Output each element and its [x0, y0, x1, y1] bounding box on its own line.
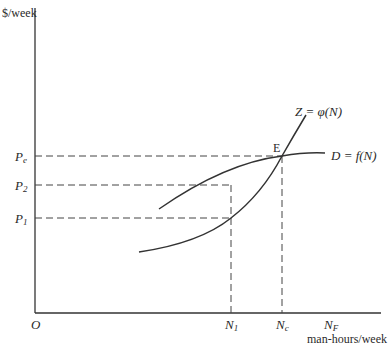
tick-p2: P2 [15, 179, 27, 194]
origin-label: O [31, 318, 40, 331]
x-axis-label: man-hours/week [307, 333, 387, 345]
tick-pe: Pe [15, 150, 27, 165]
tick-nc: Nc [276, 318, 289, 333]
y-axis-label: $/week [2, 7, 37, 19]
tick-p1: P1 [15, 212, 27, 227]
curve-d [159, 153, 325, 209]
curve-d-label: D = f(N) [331, 149, 377, 162]
curve-z [139, 115, 306, 252]
tick-n1: N1 [225, 318, 238, 333]
labor-market-diagram: $/week Pe P2 P1 O N1 Nc NF man-hours/wee… [0, 0, 389, 348]
point-e-label: E [273, 142, 280, 154]
diagram-canvas [0, 0, 389, 348]
tick-nf: NF [324, 318, 338, 333]
curve-z-label: Z = φ(N) [295, 105, 342, 118]
